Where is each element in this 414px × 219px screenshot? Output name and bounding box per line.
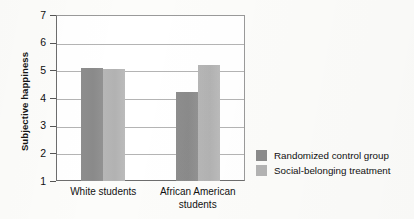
- bar-control: [81, 68, 103, 181]
- y-axis-tick-label: 1: [26, 176, 46, 187]
- bar-treatment: [198, 65, 220, 181]
- bar-series-layer: [56, 15, 245, 181]
- chart-legend: Randomized control groupSocial-belonging…: [256, 148, 391, 178]
- y-axis-tick-label: 2: [26, 148, 46, 159]
- bar-control: [176, 92, 198, 181]
- legend-color-swatch: [256, 165, 267, 176]
- y-axis-tick-label: 5: [26, 65, 46, 76]
- y-axis-tick-label: 4: [26, 93, 46, 104]
- legend-item: Randomized control group: [256, 148, 391, 163]
- y-axis-tick-label: 7: [26, 10, 46, 21]
- bar-treatment: [103, 69, 125, 181]
- y-axis-tick-label: 3: [26, 120, 46, 131]
- x-axis-category-label: African Americanstudents: [138, 186, 258, 211]
- legend-color-swatch: [256, 150, 267, 161]
- y-axis-tick-label: 6: [26, 37, 46, 48]
- chart-figure: Subjective happiness 1234567 White stude…: [0, 0, 414, 219]
- legend-item: Social-belonging treatment: [256, 163, 391, 178]
- legend-label: Randomized control group: [274, 150, 389, 161]
- y-axis-tick: [50, 181, 56, 182]
- legend-label: Social-belonging treatment: [274, 165, 391, 176]
